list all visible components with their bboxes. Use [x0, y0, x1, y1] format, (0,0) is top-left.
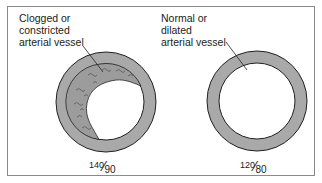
label-line: Clogged or — [19, 12, 84, 24]
label-line: arterial vessel — [161, 36, 226, 48]
label-line: arterial vessel — [19, 36, 84, 48]
normal-vessel-label: Normal or dilated arterial vessel — [161, 12, 226, 48]
clogged-vessel-icon — [56, 52, 156, 152]
label-line: constricted — [19, 24, 84, 36]
clogged-vessel-label: Clogged or constricted arterial vessel — [19, 12, 84, 48]
normal-vessel-icon — [207, 51, 307, 151]
label-line: dilated — [161, 24, 226, 36]
blood-pressure-right: 120⁄80 — [240, 158, 267, 175]
label-line: Normal or — [161, 12, 226, 24]
bp-diastolic: 90 — [104, 164, 115, 175]
bp-systolic: 120 — [240, 160, 255, 170]
bp-systolic: 140 — [89, 160, 104, 170]
bp-diastolic: 80 — [255, 164, 266, 175]
blood-pressure-left: 140⁄90 — [89, 158, 116, 175]
